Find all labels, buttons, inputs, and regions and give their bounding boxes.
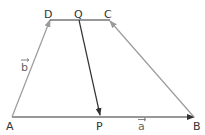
line-qp bbox=[79, 20, 100, 115]
label-q: Q bbox=[74, 8, 83, 21]
vector-b-text: b bbox=[21, 61, 28, 74]
vector-label-a: a bbox=[138, 118, 146, 133]
label-a: A bbox=[6, 120, 14, 133]
vector-b-line-ad bbox=[12, 20, 50, 117]
trapezium-diagram: A B D Q C P b a bbox=[0, 0, 205, 135]
label-d: D bbox=[44, 8, 52, 21]
label-b: B bbox=[193, 120, 201, 133]
label-p: P bbox=[96, 120, 103, 133]
vector-a-text: a bbox=[138, 120, 145, 133]
label-c: C bbox=[104, 8, 112, 21]
vector-label-b: b bbox=[21, 59, 29, 75]
line-bc bbox=[110, 21, 194, 117]
